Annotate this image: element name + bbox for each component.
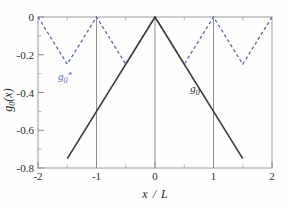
svg-text:g0(x): g0(x) xyxy=(1,88,17,111)
series-g0star-annotation: g0* xyxy=(58,70,73,85)
series-g0-annotation: g0 xyxy=(190,82,200,97)
x-axis-title-slash: / xyxy=(152,187,158,201)
series-g0-subscript: 0 xyxy=(196,88,200,97)
y-tick-label-0: 0 xyxy=(29,11,35,23)
svg-text:g0: g0 xyxy=(190,82,200,97)
x-axis-major-ticks xyxy=(38,162,272,168)
x-tick-label-0: -2 xyxy=(33,170,42,182)
x-tick-labels: -2 -1 0 1 2 xyxy=(33,170,274,182)
x-axis-title: x / L xyxy=(141,187,168,201)
y-tick-label-1: -0.2 xyxy=(17,49,34,61)
series-g0star-superscript: * xyxy=(68,70,73,80)
x-tick-label-3: 1 xyxy=(211,170,217,182)
x-axis-title-denominator: L xyxy=(160,187,168,201)
x-tick-label-1: -1 xyxy=(92,170,101,182)
x-axis-title-variable: x xyxy=(141,187,148,201)
figure-container: -2 -1 0 1 2 0 -0.2 -0.4 -0.6 -0.8 x / L … xyxy=(0,0,286,208)
y-axis-major-ticks xyxy=(38,17,44,168)
y-axis-title: g0(x) xyxy=(1,88,17,111)
y-tick-label-2: -0.4 xyxy=(17,87,35,99)
y-axis-title-argument: (x) xyxy=(1,88,15,101)
y-tick-labels: 0 -0.2 -0.4 -0.6 -0.8 xyxy=(17,11,35,174)
y-tick-label-4: -0.8 xyxy=(17,162,35,174)
x-tick-label-4: 2 xyxy=(269,170,275,182)
svg-text:g0*: g0* xyxy=(58,70,73,85)
x-tick-label-2: 0 xyxy=(152,170,158,182)
svg-text:x / L: x / L xyxy=(141,187,168,201)
chart-svg: -2 -1 0 1 2 0 -0.2 -0.4 -0.6 -0.8 x / L … xyxy=(0,0,286,208)
y-tick-label-3: -0.6 xyxy=(17,124,35,136)
